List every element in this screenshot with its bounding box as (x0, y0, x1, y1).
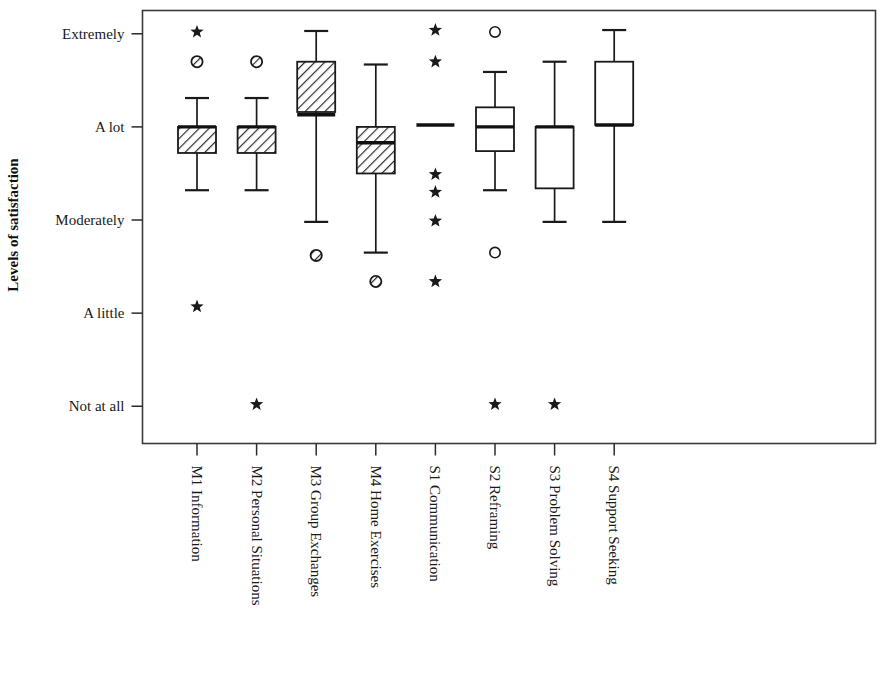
outlier-circle-marker (490, 27, 500, 37)
outlier-circle-hatched-marker (370, 276, 381, 287)
x-axis-label-1: M2 Personal Situations (249, 466, 265, 606)
y-axis-title-text: Levels of satisfaction (5, 158, 21, 292)
y-tick-label: Not at all (69, 398, 125, 414)
box-plot-2 (297, 31, 335, 261)
y-axis-title: Levels of satisfaction (5, 158, 21, 292)
box-body (297, 62, 335, 112)
outlier-star-marker (190, 300, 203, 313)
box-series (178, 23, 633, 410)
x-axis-label-2: M3 Group Exchanges (308, 466, 324, 598)
outlier-star-marker (548, 397, 561, 410)
box-plot-1 (238, 56, 276, 410)
box-body (476, 107, 514, 151)
outlier-star-marker (190, 25, 203, 38)
outlier-star-marker (250, 397, 263, 410)
x-axis-label-7: S4 Support Seeking (606, 466, 622, 586)
box-plot-5 (476, 27, 514, 410)
x-axis-label-4: S1 Communication (427, 466, 443, 583)
box-plot-0 (178, 25, 216, 312)
outlier-star-marker (429, 274, 442, 287)
outlier-circle-hatched-marker (311, 250, 322, 261)
outlier-star-marker (429, 55, 442, 68)
x-axis-label-0: M1 Information (189, 466, 205, 563)
box-body (595, 62, 633, 125)
outlier-circle-marker (490, 247, 500, 257)
outlier-star-marker (488, 397, 501, 410)
y-tick-label: Moderately (55, 212, 125, 228)
y-tick-label: Extremely (62, 26, 125, 42)
y-tick-1: A lot (95, 119, 143, 135)
y-tick-2: Moderately (55, 212, 142, 228)
box-body (536, 127, 574, 188)
plot-frame (143, 11, 876, 444)
outlier-star-marker (429, 23, 442, 36)
outlier-star-marker (429, 185, 442, 198)
y-tick-label: A lot (95, 119, 125, 135)
x-axis-labels: M1 InformationM2 Personal SituationsM3 G… (189, 466, 622, 606)
outlier-star-marker (429, 167, 442, 180)
box-body (178, 127, 216, 153)
box-body (357, 127, 395, 174)
x-axis-label-6: S3 Problem Solving (547, 466, 563, 587)
y-axis-ticks: ExtremelyA lotModeratelyA littleNot at a… (55, 26, 142, 414)
box-body (238, 127, 276, 153)
box-plot-6 (536, 62, 574, 410)
box-plot-3 (357, 65, 395, 288)
y-tick-3: A little (83, 305, 142, 321)
outlier-star-marker (429, 214, 442, 227)
y-tick-label: A little (83, 305, 125, 321)
x-axis-label-5: S2 Reframing (487, 466, 503, 550)
outlier-circle-hatched-marker (191, 56, 202, 67)
outlier-circle-hatched-marker (251, 56, 262, 67)
boxplot-figure: Levels of satisfaction ExtremelyA lotMod… (0, 0, 889, 678)
box-plot-4 (416, 23, 454, 287)
y-tick-4: Not at all (69, 398, 143, 414)
x-axis-ticks (197, 444, 614, 456)
y-tick-0: Extremely (62, 26, 142, 42)
boxplot-canvas: Levels of satisfaction ExtremelyA lotMod… (0, 0, 889, 678)
box-plot-7 (595, 30, 633, 222)
x-axis-label-3: M4 Home Exercises (368, 466, 384, 589)
